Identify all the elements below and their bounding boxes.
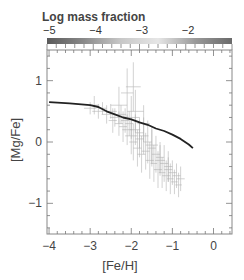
plot-area: −4−3−2−10 −101	[28, 50, 232, 253]
data-point	[168, 160, 176, 185]
x-tick-label: −3	[83, 239, 97, 253]
data-point	[160, 145, 168, 182]
colorbar-label: Log mass fraction	[42, 10, 145, 24]
colorbar-tick-labels: −5−4−3−2	[43, 24, 194, 36]
data-point	[135, 121, 143, 158]
x-tick-label: −2	[124, 239, 138, 253]
data-point	[129, 124, 137, 161]
data-point	[133, 130, 141, 167]
x-tick-label: 0	[210, 239, 217, 253]
y-tick-label: 0	[35, 135, 42, 149]
data-point	[137, 136, 145, 173]
data-point	[121, 108, 129, 133]
data-point	[155, 145, 165, 176]
x-axis-label: [Fe/H]	[102, 258, 137, 273]
data-point	[154, 151, 162, 188]
chart: Log mass fraction −5−4−3−2 −4−3−2−10 −10…	[0, 0, 244, 280]
data-point	[162, 160, 170, 191]
data-point	[164, 157, 172, 182]
x-axis-ticks: −4−3−2−10	[42, 50, 230, 253]
y-tick-label: −1	[28, 196, 42, 210]
colorbar-tick-label: −3	[136, 24, 149, 36]
data-point	[146, 142, 154, 179]
data-point	[172, 163, 180, 188]
y-axis-label: [Mg/Fe]	[8, 118, 23, 162]
x-tick-label: −4	[42, 239, 56, 253]
colorbar-tick-label: −2	[182, 24, 195, 36]
data-point	[152, 136, 160, 173]
colorbar: Log mass fraction −5−4−3−2	[42, 10, 232, 50]
x-tick-label: −1	[166, 239, 180, 253]
data-point	[126, 62, 141, 111]
y-tick-label: 1	[35, 74, 42, 88]
data-point	[125, 111, 133, 136]
data-point	[127, 90, 143, 133]
data-point	[177, 167, 185, 192]
colorbar-gradient	[47, 38, 232, 44]
colorbar-tick-label: −5	[43, 24, 56, 36]
data-points-errorbars	[84, 62, 185, 197]
data-point	[142, 133, 150, 170]
colorbar-tick-label: −4	[89, 24, 102, 36]
colorbar-ticks	[47, 44, 232, 50]
